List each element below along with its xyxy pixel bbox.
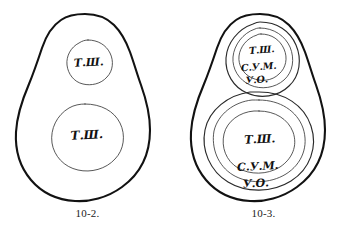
outer-outline-shape	[16, 14, 150, 201]
figure-panel-10-2: Т.Ш. Т.Ш. 10-2.	[0, 0, 175, 235]
figure-panel-10-3: Т.Ш. С.У.М. У.О. Т.Ш. С.У.М. У.О. 10-3.	[176, 0, 351, 235]
label-lower-tsh: Т.Ш.	[244, 131, 276, 147]
figure-caption-10-2: 10-2.	[0, 206, 175, 220]
figure-drawing-10-2: Т.Ш. Т.Ш.	[0, 0, 175, 210]
label-upper-tsh: Т.Ш.	[74, 55, 105, 70]
label-upper-uo: У.О.	[245, 73, 268, 86]
label-lower-uo: У.О.	[242, 176, 269, 190]
figure-drawing-10-3: Т.Ш. С.У.М. У.О. Т.Ш. С.У.М. У.О.	[176, 0, 351, 210]
label-lower-sum: С.У.М.	[237, 159, 279, 174]
figure-caption-10-3: 10-3.	[176, 206, 351, 220]
label-upper-tsh: Т.Ш.	[249, 43, 275, 56]
figure-plate: Т.Ш. Т.Ш. 10-2. Т.Ш. С.У.М. У.О. Т.Ш.	[0, 0, 351, 235]
label-lower-tsh: Т.Ш.	[70, 127, 103, 143]
